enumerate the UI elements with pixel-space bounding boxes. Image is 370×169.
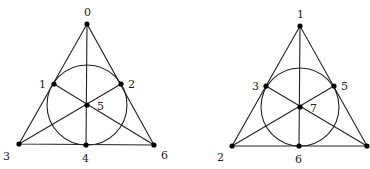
median-line — [232, 86, 334, 146]
point-3 — [263, 83, 268, 88]
label-4: 4 — [82, 152, 89, 165]
point-unlabeled — [364, 143, 369, 148]
label-6: 6 — [161, 149, 168, 162]
median-line — [299, 26, 300, 146]
label-5: 5 — [341, 80, 348, 93]
point-4 — [83, 142, 88, 147]
fano-plane-right: 1 3 5 2 6 7 — [217, 8, 370, 166]
label-0: 0 — [84, 6, 91, 19]
point-6 — [151, 142, 156, 147]
label-7: 7 — [310, 102, 317, 115]
label-3: 3 — [3, 150, 10, 163]
label-1: 1 — [297, 8, 304, 21]
point-2 — [229, 143, 234, 148]
median-line — [266, 86, 367, 146]
label-1: 1 — [39, 78, 46, 91]
fano-plane-left: 0 1 2 3 4 5 6 — [3, 6, 168, 165]
point-1 — [297, 23, 302, 28]
point-2 — [118, 81, 123, 86]
point-6 — [296, 143, 301, 148]
point-0 — [84, 21, 89, 26]
point-3 — [16, 141, 21, 146]
label-2: 2 — [128, 78, 135, 91]
fano-diagrams: 0 1 2 3 4 5 6 1 3 5 2 6 7 — [0, 0, 370, 169]
label-2: 2 — [217, 151, 224, 164]
point-1 — [51, 81, 56, 86]
label-3: 3 — [252, 80, 259, 93]
point-5 — [331, 83, 336, 88]
median-line — [86, 24, 87, 145]
point-7 — [297, 104, 302, 109]
label-5: 5 — [97, 100, 104, 113]
point-5 — [84, 102, 89, 107]
median-line — [19, 84, 121, 144]
label-6: 6 — [295, 153, 302, 166]
